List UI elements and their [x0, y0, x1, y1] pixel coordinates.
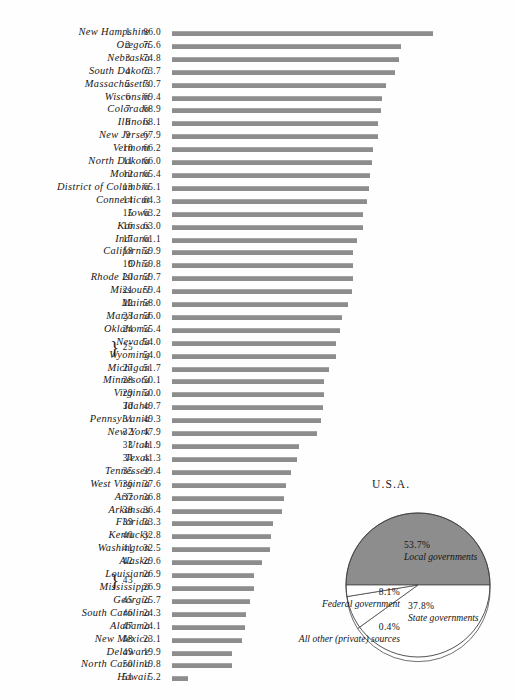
row-value: 24.1 [139, 620, 161, 633]
row-bar [172, 302, 348, 307]
row-value: 32.5 [139, 542, 161, 555]
row-rank: 4 [118, 65, 138, 78]
pie-label-local: 53.7% Local governments [404, 539, 477, 562]
row-value: 74.8 [139, 52, 161, 65]
row-rank: 42 [118, 555, 138, 568]
row-value: 39.4 [139, 465, 161, 478]
row-rank: 48 [118, 633, 138, 646]
row-value: 29.6 [139, 555, 161, 568]
row-rank: 8 [118, 116, 138, 129]
row-value: 19.8 [139, 658, 161, 671]
row-bar [172, 586, 254, 591]
row-bar [172, 315, 342, 320]
row-value: 32.8 [139, 529, 161, 542]
row-value: 64.3 [139, 194, 161, 207]
table-row: Kansas1663.0 [0, 221, 515, 234]
row-value: 26.9 [139, 581, 161, 594]
table-row: Missouri2159.4 [0, 285, 515, 298]
row-rank: 28 [118, 374, 138, 387]
row-rank: 50 [118, 658, 138, 671]
row-value: 54.0 [139, 349, 161, 362]
row-bar [172, 405, 323, 410]
row-rank: 7 [118, 103, 138, 116]
pie-label-other: 0.4% All other (private) sources [222, 621, 400, 644]
row-value: 65.1 [139, 181, 161, 194]
table-row: Connecticut1464.3 [0, 195, 515, 208]
row-rank: 2 [118, 39, 138, 52]
row-rank: 27 [118, 362, 138, 375]
row-rank: 32 [118, 426, 138, 439]
row-bar [172, 496, 284, 501]
row-value: 63.0 [139, 220, 161, 233]
row-bar [172, 134, 378, 139]
row-rank: 1 [118, 26, 138, 39]
table-row: Massachusetts570.7 [0, 79, 515, 92]
table-row: Rhode Island2059.7 [0, 272, 515, 285]
row-bar [172, 599, 250, 604]
row-rank: 15 [118, 207, 138, 220]
row-rank: 37 [118, 491, 138, 504]
row-rank: 23 [118, 310, 138, 323]
row-value: 37.6 [139, 478, 161, 491]
row-value: 66.0 [139, 155, 161, 168]
row-value: 67.9 [139, 129, 161, 142]
row-bar [172, 276, 353, 281]
row-value: 59.8 [139, 258, 161, 271]
pie-label-state: 37.8% State governments [408, 600, 479, 623]
row-bar [172, 212, 363, 217]
row-bar [172, 341, 336, 346]
row-bar [172, 147, 373, 152]
table-row: Idaho3049.7 [0, 401, 515, 414]
row-bar [172, 160, 372, 165]
row-bar [172, 263, 353, 268]
table-row: Iowa1563.2 [0, 208, 515, 221]
row-bar [172, 108, 381, 113]
row-bar [172, 354, 336, 359]
row-value: 59.9 [139, 245, 161, 258]
row-value: 69.4 [139, 91, 161, 104]
pie-pct-local: 53.7% [404, 539, 430, 550]
row-value: 51.7 [139, 362, 161, 375]
row-bar [172, 392, 324, 397]
row-bar [172, 238, 357, 243]
row-rank: 20 [118, 271, 138, 284]
row-value: 26.9 [139, 568, 161, 581]
row-bar [172, 70, 395, 75]
row-bar [172, 186, 369, 191]
pie-name-other: All other (private) sources [299, 633, 400, 644]
table-row: Wyoming2554.0 [0, 350, 515, 363]
row-value: 63.2 [139, 207, 161, 220]
row-rank: 24 [118, 323, 138, 336]
row-rank: 39 [118, 516, 138, 529]
row-rank: 14 [118, 194, 138, 207]
row-rank: 9 [118, 129, 138, 142]
table-row: South Dakota473.7 [0, 66, 515, 79]
table-row: Pennsylvania3149.3 [0, 414, 515, 427]
row-value: 68.9 [139, 103, 161, 116]
row-value: 41.3 [139, 452, 161, 465]
row-bar [172, 199, 367, 204]
table-row: Utah3341.9 [0, 440, 515, 453]
table-row: Ohio1959.8 [0, 259, 515, 272]
table-row: Virginia2950.0 [0, 388, 515, 401]
row-value: 50.0 [139, 387, 161, 400]
row-value: 5.2 [139, 671, 161, 684]
row-bar [172, 96, 382, 101]
row-value: 55.4 [139, 323, 161, 336]
table-row: Oregon275.6 [0, 40, 515, 53]
row-rank: 49 [118, 646, 138, 659]
row-bar [172, 573, 254, 578]
row-value: 70.7 [139, 78, 161, 91]
row-bar [172, 509, 282, 514]
row-value: 25.7 [139, 594, 161, 607]
row-rank: 35 [118, 465, 138, 478]
row-bar [172, 225, 363, 230]
row-rank: 34 [118, 452, 138, 465]
row-rank: 40 [118, 529, 138, 542]
row-bar [172, 560, 262, 565]
row-bar [172, 31, 433, 36]
pie-chart: U.S.A. 53.7% Local governments 37.8% Sta… [300, 478, 515, 693]
table-row: Maine2258.0 [0, 298, 515, 311]
row-rank: 3 [118, 52, 138, 65]
row-bar [172, 612, 246, 617]
